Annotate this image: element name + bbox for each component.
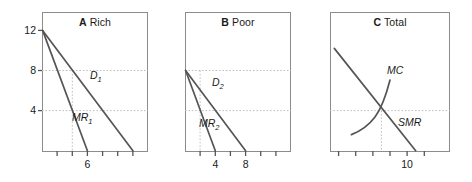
- panel-a-label-d1: D1: [90, 69, 102, 84]
- panel-b-label-mr2-sub: 2: [215, 123, 219, 132]
- panel-a-ylabel-12: 12: [14, 24, 36, 36]
- panel-b-xlabel-8: 8: [234, 158, 258, 170]
- panel-a-rich: A Rich 12 8 4 6: [42, 12, 148, 152]
- panel-a-label-d1-sub: 1: [98, 75, 102, 84]
- panel-c-plot: [330, 12, 450, 152]
- panel-a-label-d1-text: D: [90, 69, 98, 81]
- panel-a-label-mr1: MR1: [72, 111, 93, 126]
- panel-a-label-mr1-text: MR: [72, 111, 88, 123]
- price-discrimination-figure: A Rich 12 8 4 6: [0, 0, 472, 182]
- panel-a-label-mr1-sub: 1: [88, 117, 92, 126]
- panel-c-curve-mc: [351, 80, 390, 135]
- panel-b-label-d2-text: D: [212, 76, 220, 88]
- panel-b-poor: B Poor 4 8 D2 MR2: [185, 12, 291, 152]
- panel-c-xlabel-10: 10: [395, 158, 419, 170]
- panel-b-label-d2-sub: 2: [220, 82, 224, 91]
- panel-b-label-mr2: MR2: [199, 117, 220, 132]
- panel-b-xlabel-4: 4: [203, 158, 227, 170]
- panel-a-ylabel-4: 4: [14, 104, 36, 116]
- panel-c-total: C Total 10 MC SMR: [330, 12, 450, 152]
- panel-b-label-mr2-text: MR: [199, 117, 215, 129]
- panel-c-label-smr: SMR: [398, 116, 421, 128]
- panel-a-ylabel-8: 8: [14, 64, 36, 76]
- panel-a-curve-mr1: [43, 30, 88, 150]
- panel-b-label-d2: D2: [212, 76, 224, 91]
- panel-c-label-mc: MC: [387, 64, 403, 76]
- panel-a-curve-d1: [43, 30, 133, 150]
- panel-a-xlabel-6: 6: [75, 158, 99, 170]
- panel-c-curve-smr: [334, 48, 415, 150]
